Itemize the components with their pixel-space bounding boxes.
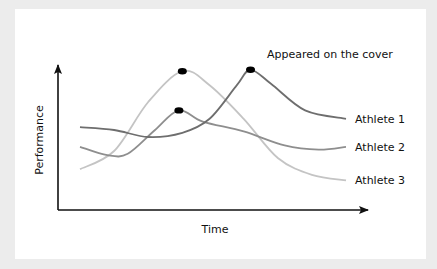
series-label-athlete-2: Athlete 2 [355, 141, 405, 154]
cover-annotation: Appeared on the cover [267, 48, 393, 61]
y-axis-label: Performance [33, 105, 46, 175]
series-line-athlete-3 [80, 71, 346, 181]
series-label-athlete-1: Athlete 1 [355, 113, 405, 126]
cover-marker-athlete-1 [246, 67, 255, 73]
series-line-athlete-1 [80, 70, 346, 137]
chart: Athlete 1Athlete 2Athlete 3 Time Perform… [0, 0, 437, 269]
cover-marker-athlete-2 [174, 107, 183, 113]
cover-marker-athlete-3 [178, 68, 187, 74]
series-label-athlete-3: Athlete 3 [355, 174, 405, 187]
x-axis-label: Time [201, 223, 229, 236]
series-line-athlete-2 [80, 110, 346, 156]
